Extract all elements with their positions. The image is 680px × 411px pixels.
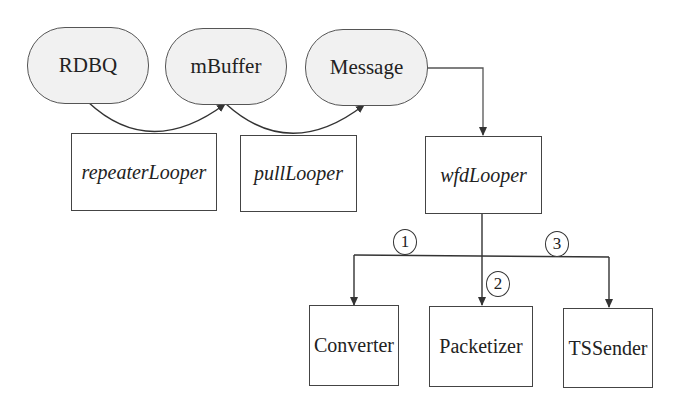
- looper-label: pullLooper: [254, 162, 343, 185]
- queue-label: mBuffer: [191, 54, 262, 79]
- arrow-rdbq-to-mbuffer: [88, 102, 225, 132]
- queue-rdbq: RDBQ: [27, 27, 149, 104]
- step-number: 1: [401, 232, 410, 252]
- component-label: TSSender: [569, 337, 648, 360]
- step-marker-3: 3: [545, 231, 569, 257]
- component-label: Packetizer: [439, 335, 522, 358]
- step-marker-2: 2: [486, 271, 510, 297]
- queue-label: RDBQ: [59, 53, 117, 78]
- component-label: Converter: [314, 334, 394, 357]
- step-number: 3: [553, 234, 562, 254]
- looper-label: repeaterLooper: [82, 161, 207, 184]
- looper-repeater: repeaterLooper: [71, 133, 217, 211]
- component-converter: Converter: [309, 305, 399, 386]
- queue-message: Message: [305, 29, 428, 106]
- arrow-message-to-wfdlooper: [427, 68, 483, 135]
- component-tssender: TSSender: [563, 308, 653, 388]
- looper-wfd: wfdLooper: [425, 136, 542, 214]
- queue-label: Message: [330, 55, 403, 80]
- queue-mbuffer: mBuffer: [165, 28, 287, 105]
- branch-line: [354, 255, 609, 257]
- looper-label: wfdLooper: [440, 164, 527, 187]
- arrow-mbuffer-to-message: [226, 104, 364, 133]
- component-packetizer: Packetizer: [429, 306, 533, 387]
- looper-pull: pullLooper: [240, 135, 357, 212]
- step-marker-1: 1: [393, 229, 417, 255]
- step-number: 2: [494, 274, 503, 294]
